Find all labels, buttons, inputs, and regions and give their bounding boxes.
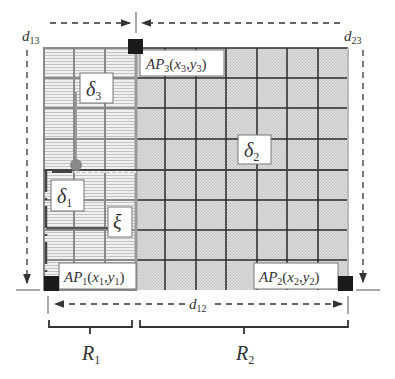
xi-label: ξ bbox=[113, 211, 122, 233]
ap2-marker bbox=[338, 276, 353, 291]
r1-label: R1 bbox=[81, 342, 100, 367]
d13-label: d13 bbox=[22, 28, 40, 46]
localization-diagram: AP3(x3,y3) AP1(x1,y1) AP2(x2,y2) δ3 δ2 δ… bbox=[0, 0, 395, 379]
ap1-marker bbox=[44, 276, 59, 291]
d12-label: d12 bbox=[189, 296, 207, 314]
estimated-position-marker bbox=[70, 159, 82, 171]
r2-brace bbox=[140, 320, 348, 334]
r1-brace bbox=[49, 320, 132, 334]
r2-label: R2 bbox=[235, 342, 254, 367]
d23-label: d23 bbox=[344, 28, 362, 46]
ap3-marker bbox=[128, 39, 143, 54]
